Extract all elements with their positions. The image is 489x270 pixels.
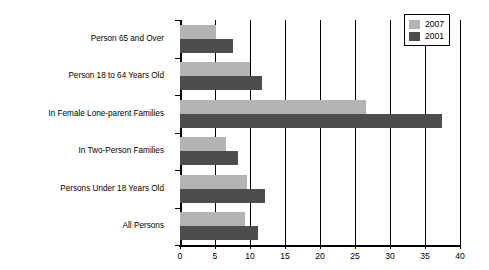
bar-2001-2 bbox=[180, 114, 442, 128]
category-label-2: In Female Lone-parent Families bbox=[0, 109, 164, 119]
x-tick-25 bbox=[355, 245, 356, 249]
x-tick-30 bbox=[390, 245, 391, 249]
x-tick-label-5: 5 bbox=[200, 251, 230, 262]
x-tick-label-10: 10 bbox=[235, 251, 265, 262]
x-tick-label-0: 0 bbox=[165, 251, 195, 262]
bar-2007-2 bbox=[180, 100, 366, 114]
y-axis-tick-4 bbox=[175, 170, 180, 171]
legend-label-2001: 2001 bbox=[425, 31, 444, 41]
bar-2007-5 bbox=[180, 212, 245, 226]
category-label-1: Person 18 to 64 Years Old bbox=[0, 71, 164, 81]
legend-swatch-2001 bbox=[409, 32, 420, 41]
y-axis-tick-5 bbox=[175, 208, 180, 209]
legend-item-2007: 2007 bbox=[409, 18, 444, 30]
legend-item-2001: 2001 bbox=[409, 30, 444, 42]
x-tick-40 bbox=[460, 245, 461, 249]
y-axis-line bbox=[180, 20, 182, 245]
legend-swatch-2007 bbox=[409, 20, 420, 29]
bar-2007-4 bbox=[180, 175, 247, 189]
y-axis-tick-2 bbox=[175, 95, 180, 96]
gridline-35 bbox=[425, 20, 426, 245]
category-label-5: All Persons bbox=[0, 221, 164, 231]
x-tick-5 bbox=[215, 245, 216, 249]
x-tick-35 bbox=[425, 245, 426, 249]
chart-legend: 2007 2001 bbox=[404, 14, 450, 46]
bar-2001-4 bbox=[180, 189, 265, 203]
gridline-15 bbox=[285, 20, 286, 245]
bar-2001-3 bbox=[180, 151, 238, 165]
category-label-0: Person 65 and Over bbox=[0, 34, 164, 44]
gridline-5 bbox=[215, 20, 216, 245]
bar-2001-5 bbox=[180, 226, 258, 240]
bar-2007-3 bbox=[180, 137, 226, 151]
y-axis-tick-0 bbox=[175, 20, 180, 21]
x-tick-15 bbox=[285, 245, 286, 249]
plot-area bbox=[180, 20, 460, 245]
y-axis-tick-1 bbox=[175, 58, 180, 59]
gridline-20 bbox=[320, 20, 321, 245]
x-tick-label-40: 40 bbox=[445, 251, 475, 262]
gridline-25 bbox=[355, 20, 356, 245]
gridline-40 bbox=[460, 20, 461, 245]
x-tick-label-15: 15 bbox=[270, 251, 300, 262]
y-axis-tick-end bbox=[175, 245, 180, 246]
bar-2001-1 bbox=[180, 76, 262, 90]
x-tick-label-35: 35 bbox=[410, 251, 440, 262]
gridline-30 bbox=[390, 20, 391, 245]
bar-2007-0 bbox=[180, 25, 216, 39]
bar-2007-1 bbox=[180, 62, 250, 76]
category-axis-labels: Person 65 and OverPerson 18 to 64 Years … bbox=[0, 20, 172, 245]
x-tick-10 bbox=[250, 245, 251, 249]
category-label-4: Persons Under 18 Years Old bbox=[0, 184, 164, 194]
gridline-10 bbox=[250, 20, 251, 245]
x-tick-0 bbox=[180, 245, 181, 249]
category-label-3: In Two-Person Families bbox=[0, 146, 164, 156]
y-axis-tick-3 bbox=[175, 133, 180, 134]
x-tick-label-30: 30 bbox=[375, 251, 405, 262]
legend-label-2007: 2007 bbox=[425, 19, 444, 29]
x-tick-label-20: 20 bbox=[305, 251, 335, 262]
x-tick-20 bbox=[320, 245, 321, 249]
bar-chart: Person 65 and OverPerson 18 to 64 Years … bbox=[0, 0, 489, 270]
x-tick-label-25: 25 bbox=[340, 251, 370, 262]
bar-2001-0 bbox=[180, 39, 233, 53]
